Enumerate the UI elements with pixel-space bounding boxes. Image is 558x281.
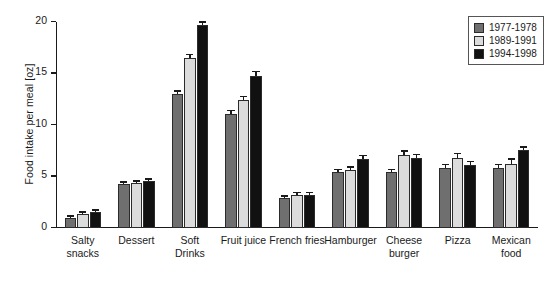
error-bar-cap: [334, 169, 341, 170]
error-bar: [177, 92, 178, 95]
error-bar: [243, 97, 244, 100]
bar: [411, 149, 423, 228]
bar-rect: [411, 158, 423, 228]
error-bar-cap: [454, 153, 461, 154]
bar-rect: [250, 76, 262, 228]
bar: [184, 49, 196, 228]
plot-area: 05101520: [56, 22, 538, 228]
y-axis-tick-label: 10: [35, 117, 47, 129]
y-axis-tick-label: 0: [41, 220, 47, 232]
bar-group: [279, 22, 316, 228]
bar-rect: [398, 155, 410, 228]
error-bar: [123, 183, 124, 184]
error-bar-cap: [413, 154, 420, 155]
error-bar-cap: [467, 161, 474, 162]
bar: [505, 154, 517, 228]
legend-swatch-icon: [474, 36, 484, 46]
bar-rect: [452, 158, 464, 228]
legend: 1977-19781989-19911994-1998: [468, 16, 544, 65]
error-bar-cap: [120, 181, 127, 182]
error-bar-cap: [306, 192, 313, 193]
bar: [464, 156, 476, 228]
bar-group: [225, 22, 262, 228]
bar: [172, 86, 184, 228]
bar-rect: [172, 94, 184, 228]
error-bar: [95, 211, 96, 212]
bar: [118, 177, 130, 228]
error-bar: [523, 148, 524, 150]
bar: [197, 17, 209, 228]
bar: [345, 162, 357, 228]
error-bar-cap: [495, 164, 502, 165]
y-axis-tick: 5: [51, 175, 56, 176]
error-bar-cap: [401, 150, 408, 151]
bar: [398, 146, 410, 228]
error-bar: [202, 23, 203, 26]
bar-rect: [357, 159, 369, 228]
legend-swatch-icon: [474, 23, 484, 33]
legend-item-label: 1989-1991: [489, 35, 537, 46]
bar-rect: [439, 168, 451, 228]
error-bar: [350, 168, 351, 171]
bar-rect: [464, 165, 476, 228]
error-bar-cap: [174, 90, 181, 91]
bar: [332, 164, 344, 228]
error-bar-cap: [92, 209, 99, 210]
bar-rect: [518, 150, 530, 228]
bar: [386, 164, 398, 228]
error-bar-cap: [227, 110, 234, 111]
bar: [77, 207, 89, 228]
bar-chart: Food intake per meal [oz] 05101520 Salty…: [0, 0, 558, 281]
error-bar-cap: [281, 195, 288, 196]
legend-item: 1994-1998: [474, 47, 537, 60]
error-bar: [416, 155, 417, 158]
bar-rect: [386, 172, 398, 228]
bar: [225, 105, 237, 228]
bar-rect: [345, 170, 357, 228]
error-bar: [296, 193, 297, 195]
bar-group: [172, 22, 209, 228]
bar-rect: [77, 214, 89, 228]
y-axis-tick: 0: [51, 227, 56, 228]
error-bar: [82, 213, 83, 214]
bar: [143, 174, 155, 228]
bar: [131, 176, 143, 228]
y-axis-tick-label: 15: [35, 65, 47, 77]
bar-group: [118, 22, 155, 228]
error-bar: [230, 111, 231, 114]
bar: [238, 91, 250, 228]
legend-item: 1977-1978: [474, 21, 537, 34]
error-bar: [403, 152, 404, 155]
bar-rect: [279, 198, 291, 228]
error-bar-cap: [388, 169, 395, 170]
error-bar-cap: [508, 158, 515, 159]
error-bar-cap: [520, 146, 527, 147]
bar-rect: [184, 58, 196, 228]
bar-rect: [291, 195, 303, 228]
bar: [452, 148, 464, 228]
error-bar: [189, 55, 190, 58]
error-bar-cap: [252, 71, 259, 72]
error-bar: [362, 156, 363, 159]
error-bar-cap: [442, 164, 449, 165]
error-bar: [309, 193, 310, 195]
bar-rect: [304, 195, 316, 228]
error-bar: [498, 165, 499, 168]
error-bar-cap: [145, 178, 152, 179]
bar: [250, 66, 262, 228]
bar-group: [65, 22, 102, 228]
legend-item-label: 1977-1978: [489, 22, 537, 33]
error-bar: [511, 160, 512, 165]
y-axis-tick-label: 5: [41, 168, 47, 180]
legend-item: 1989-1991: [474, 34, 537, 47]
bar-rect: [118, 184, 130, 228]
bar-rect: [65, 218, 77, 228]
error-bar-cap: [359, 155, 366, 156]
error-bar: [470, 162, 471, 165]
bar: [439, 159, 451, 228]
bar: [357, 150, 369, 228]
error-bar: [70, 217, 71, 218]
bar-rect: [143, 181, 155, 228]
bar: [90, 205, 102, 229]
error-bar: [457, 154, 458, 158]
